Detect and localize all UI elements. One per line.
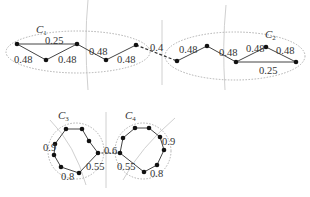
cluster-c3-label: C3 — [58, 109, 69, 123]
edge-label: 0.48 — [219, 47, 237, 58]
node — [75, 42, 80, 47]
cluster-graph-diagram: C1 C2 C3 C4 0.25 0.48 0.48 0.48 0.48 0.4… — [0, 0, 310, 197]
cluster-c1-boundary — [6, 31, 150, 73]
node — [294, 60, 299, 65]
edge-label: 0.48 — [89, 46, 107, 57]
edge-label: 0.48 — [117, 54, 135, 65]
node — [59, 165, 64, 170]
node — [175, 59, 180, 64]
edge-label: 0.55 — [117, 161, 135, 172]
node — [133, 126, 138, 131]
node — [87, 139, 92, 144]
edge-label: 0.25 — [259, 65, 277, 76]
node — [155, 163, 160, 168]
node — [264, 45, 269, 50]
edge-label: 0.9 — [162, 136, 175, 147]
edge-label: 0.48 — [58, 54, 76, 65]
edge-label: 0.6 — [104, 145, 117, 156]
node — [104, 58, 109, 63]
node — [64, 127, 69, 132]
cluster-c2-label: C2 — [265, 28, 276, 42]
edge-label: 0.25 — [45, 35, 63, 46]
node — [121, 136, 126, 141]
node — [44, 58, 49, 63]
node — [205, 44, 210, 49]
node — [234, 60, 239, 65]
node — [77, 171, 82, 176]
node — [52, 153, 57, 158]
edge-label: 0.48 — [276, 45, 294, 56]
edge-label: 0.9 — [43, 142, 56, 153]
node — [142, 170, 147, 175]
edge-label: 0.8 — [150, 168, 163, 179]
node — [15, 42, 20, 47]
edge-label: 0.48 — [246, 43, 264, 54]
edge-label: 0.8 — [61, 171, 74, 182]
cluster-c4-label: C4 — [125, 109, 136, 123]
edge-label: 0.55 — [86, 161, 104, 172]
node — [162, 148, 167, 153]
node — [147, 126, 152, 131]
edge-label: 0.48 — [179, 44, 197, 55]
node — [134, 43, 139, 48]
divider-line-top — [86, 0, 88, 90]
node — [96, 151, 101, 156]
edge-label: 0.48 — [14, 54, 32, 65]
edge-label: 0.4 — [150, 42, 164, 53]
node — [118, 151, 123, 156]
node — [80, 127, 85, 132]
